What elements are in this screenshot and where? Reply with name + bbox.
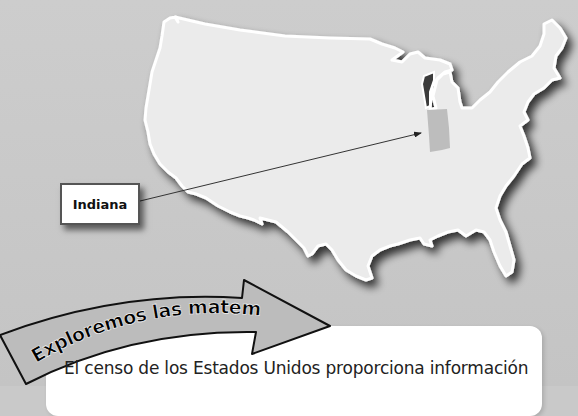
banner-title: Exploremos las matemáticas: [0, 255, 262, 366]
state-label-text: Indiana: [73, 197, 128, 212]
card-paragraph: El censo de los Estados Unidos proporcio…: [64, 358, 528, 378]
state-label-box: Indiana: [60, 183, 140, 225]
indiana-state-highlight: [427, 109, 450, 152]
